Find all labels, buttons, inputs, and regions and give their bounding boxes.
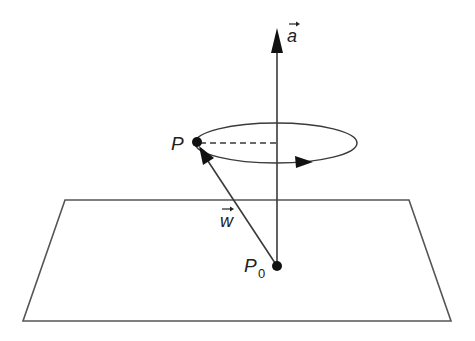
vector-w-line <box>204 155 277 266</box>
svg-text:P: P <box>244 255 257 276</box>
orbit-direction-arrowhead-icon <box>295 156 313 168</box>
axis-arrowhead-icon <box>271 28 283 53</box>
label-p0: P 0 <box>244 255 265 281</box>
plane <box>23 200 451 321</box>
rotation-diagram: a P w P 0 <box>0 0 475 341</box>
point-p0-dot <box>272 261 282 271</box>
label-a: a <box>287 22 300 47</box>
label-w: w <box>220 207 234 232</box>
svg-text:w: w <box>220 211 234 231</box>
point-p-dot <box>192 137 202 147</box>
label-p: P <box>171 133 184 154</box>
svg-text:0: 0 <box>258 266 265 281</box>
svg-text:a: a <box>287 26 297 46</box>
